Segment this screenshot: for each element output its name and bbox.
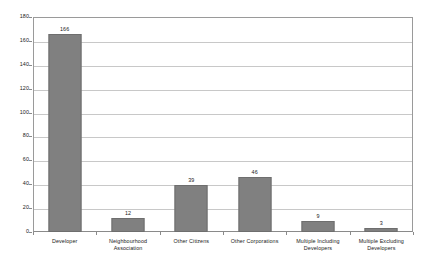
bar xyxy=(175,185,208,232)
y-tick-mark xyxy=(29,41,32,42)
bar-value-label: 46 xyxy=(252,169,258,175)
y-tick-label: 140 xyxy=(0,62,29,67)
bar xyxy=(111,218,144,232)
bar-group: 166 xyxy=(33,17,96,232)
bar-group: 39 xyxy=(160,17,223,232)
bar-value-label: 9 xyxy=(316,213,319,219)
y-tick-label: 100 xyxy=(0,110,29,115)
y-tick-label: 120 xyxy=(0,86,29,91)
y-tick-label: 60 xyxy=(0,157,29,162)
y-tick-label: 0 xyxy=(0,229,29,234)
y-tick-mark xyxy=(29,89,32,90)
bar-group: 9 xyxy=(286,17,349,232)
x-category-label: Multiple Including Developers xyxy=(286,238,349,251)
bar-group: 46 xyxy=(223,17,286,232)
bar-group: 3 xyxy=(350,17,413,232)
x-category-label: Neighbourhood Association xyxy=(96,238,159,251)
x-tick-mark xyxy=(33,232,34,235)
y-tick-mark xyxy=(29,17,32,18)
y-tick-mark xyxy=(29,113,32,114)
y-tick-label: 40 xyxy=(0,181,29,186)
bars-layer: 16612394693 xyxy=(33,17,413,232)
y-tick-mark xyxy=(29,232,32,233)
x-tick-mark xyxy=(413,232,414,235)
x-tick-mark xyxy=(350,232,351,235)
y-tick-mark xyxy=(29,208,32,209)
x-tick-mark xyxy=(286,232,287,235)
x-tick-mark xyxy=(160,232,161,235)
y-tick-mark xyxy=(29,184,32,185)
bar xyxy=(301,221,334,232)
x-tick-mark xyxy=(223,232,224,235)
bar xyxy=(238,177,271,232)
x-category-label: Other Corporations xyxy=(223,238,286,245)
x-category-label: Other Citizens xyxy=(160,238,223,245)
bar-chart: 020406080100120140160180 16612394693 Dev… xyxy=(0,0,431,265)
y-tick-mark xyxy=(29,136,32,137)
y-tick-mark xyxy=(29,65,32,66)
y-tick-label: 80 xyxy=(0,133,29,138)
y-tick-label: 20 xyxy=(0,205,29,210)
bar-value-label: 12 xyxy=(125,210,131,216)
y-axis: 020406080100120140160180 xyxy=(0,17,31,232)
bar-group: 12 xyxy=(96,17,159,232)
x-category-label: Developer xyxy=(33,238,96,245)
y-tick-label: 180 xyxy=(0,14,29,19)
bar xyxy=(48,34,81,232)
bar-value-label: 39 xyxy=(188,177,194,183)
x-tick-mark xyxy=(96,232,97,235)
y-tick-mark xyxy=(29,160,32,161)
bar-value-label: 166 xyxy=(60,26,69,32)
y-tick-label: 160 xyxy=(0,38,29,43)
x-category-label: Multiple Excluding Developers xyxy=(350,238,413,251)
x-axis: DeveloperNeighbourhood AssociationOther … xyxy=(33,232,413,265)
bar-value-label: 3 xyxy=(380,220,383,226)
